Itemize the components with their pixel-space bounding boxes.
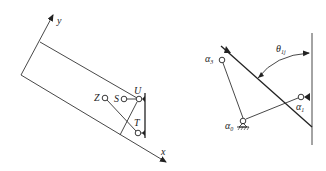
joint-alpha1 — [298, 94, 304, 100]
label-z: Z — [94, 92, 100, 103]
angle-arc-start-arrow — [258, 72, 264, 78]
right-diagram: α3 α0 α1 θ1j — [205, 33, 312, 145]
label-alpha1: α1 — [296, 101, 304, 113]
guide-marker-t — [142, 130, 145, 136]
link-alpha3-alpha0 — [223, 63, 243, 118]
x-axis-label: x — [160, 146, 166, 157]
label-alpha0: α0 — [225, 120, 233, 132]
joint-z — [102, 95, 108, 101]
marker-alpha3 — [224, 46, 231, 53]
label-theta-1j: θ1j — [276, 43, 286, 55]
ground-pivot-alpha0 — [237, 118, 249, 130]
kinematic-diagram: y x Z S U T α3 — [0, 0, 326, 171]
guide-marker-u — [142, 96, 145, 102]
y-axis-label: y — [56, 15, 62, 26]
link-alpha0-alpha1 — [246, 98, 298, 119]
label-s: S — [114, 93, 119, 104]
label-u: U — [134, 85, 142, 96]
x-axis — [21, 75, 166, 162]
label-alpha3: α3 — [205, 53, 213, 65]
joint-alpha3 — [219, 57, 225, 63]
link-z-t — [107, 100, 136, 131]
left-diagram: y x Z S U T — [21, 15, 166, 162]
y-axis — [21, 15, 53, 75]
angle-arc — [258, 53, 309, 78]
joint-t — [135, 130, 141, 136]
rectangle-top-edge — [40, 42, 137, 98]
joint-u — [136, 96, 142, 102]
joint-s — [121, 96, 127, 102]
label-t: T — [134, 117, 141, 128]
marker-alpha1 — [304, 93, 310, 101]
diagonal-line — [221, 46, 312, 127]
